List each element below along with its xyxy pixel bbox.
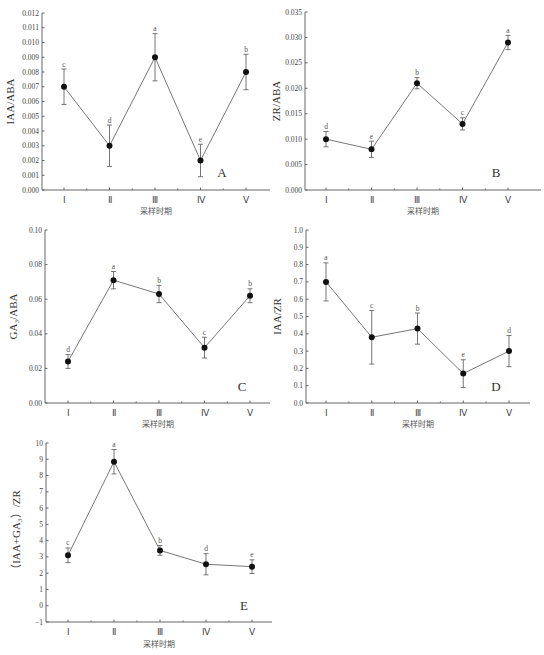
x-tick-label: Ⅴ (243, 195, 250, 205)
y-tick-label: 0.04 (29, 329, 42, 338)
y-tick-label: 3 (39, 552, 43, 561)
y-tick-label: 1.0 (294, 226, 304, 235)
panel-a: 0.0000.0010.0020.0030.0040.0050.0060.007… (4, 9, 270, 217)
y-tick-label: 0.015 (285, 109, 302, 118)
significance-label: e (462, 350, 466, 359)
x-tick-label: Ⅱ (112, 627, 116, 637)
y-tick-label: 4 (39, 536, 43, 545)
significance-label: c (66, 538, 70, 547)
significance-label: d (108, 116, 112, 125)
figure: 0.0000.0010.0020.0030.0040.0050.0060.007… (0, 0, 544, 655)
y-tick-label: 0.035 (285, 8, 302, 17)
x-tick-label: Ⅰ (67, 408, 70, 418)
x-tick-label: Ⅲ (414, 195, 420, 205)
y-tick-label: 0.10 (29, 226, 42, 235)
y-axis-title: ZR/ABA (270, 81, 282, 121)
data-point (152, 54, 158, 60)
data-point (243, 69, 249, 75)
x-tick-label: Ⅳ (459, 408, 468, 418)
significance-label: b (416, 304, 420, 313)
x-tick-label: Ⅱ (370, 408, 374, 418)
y-tick-label: 0.08 (29, 260, 42, 269)
significance-label: e (370, 132, 374, 141)
significance-label: e (250, 550, 254, 559)
x-tick-label: Ⅳ (202, 627, 211, 637)
data-point (203, 561, 209, 567)
y-tick-label: 0.7 (294, 277, 304, 286)
y-tick-label: 0.009 (22, 53, 39, 62)
y-tick-label: 0.4 (294, 329, 304, 338)
x-tick-label: Ⅰ (325, 408, 328, 418)
significance-label: c (203, 328, 207, 337)
data-point (249, 564, 255, 570)
data-point (414, 80, 420, 86)
panel-label: D (491, 379, 500, 394)
y-tick-label: 5 (39, 520, 43, 529)
x-tick-label: Ⅰ (67, 627, 70, 637)
x-axis-title: 采样时期 (142, 419, 174, 429)
y-tick-label: 1 (39, 585, 43, 594)
y-tick-label: 0.030 (285, 33, 302, 42)
panel-label: A (217, 165, 227, 180)
data-point (198, 158, 204, 164)
y-tick-label: 0.005 (22, 112, 39, 121)
significance-label: d (204, 544, 208, 553)
y-tick-label: 0.007 (22, 82, 39, 91)
y-tick-label: 0 (39, 601, 43, 610)
y-tick-label: 7 (39, 487, 43, 496)
y-tick-label: 2 (39, 569, 43, 578)
x-tick-label: Ⅴ (506, 408, 513, 418)
significance-label: b (158, 536, 162, 545)
significance-label: c (461, 108, 465, 117)
y-tick-label: 0.06 (29, 295, 42, 304)
x-tick-label: Ⅱ (112, 408, 116, 418)
data-point (157, 547, 163, 553)
y-tick-label: 0.011 (22, 23, 39, 32)
data-point (369, 334, 375, 340)
y-tick-label: 6 (39, 504, 43, 513)
y-tick-label: 0.3 (294, 347, 304, 356)
data-point (460, 371, 466, 377)
x-tick-label: Ⅳ (197, 195, 206, 205)
y-tick-label: 0.000 (285, 186, 302, 195)
y-axis-title: GA₃/ABA (7, 293, 19, 339)
data-point (65, 552, 71, 558)
x-tick-label: Ⅱ (108, 195, 112, 205)
x-tick-label: Ⅴ (247, 408, 254, 418)
panel-c: 0.000.020.040.060.080.10ⅠⅡⅢⅣⅤ采样时期GA₃/ABA… (7, 226, 270, 430)
y-tick-label: 0.6 (294, 295, 304, 304)
y-tick-label: 0.020 (285, 84, 302, 93)
x-tick-label: Ⅲ (415, 408, 421, 418)
significance-label: a (112, 440, 116, 449)
x-tick-label: Ⅳ (201, 408, 210, 418)
significance-label: e (199, 135, 203, 144)
significance-label: d (66, 345, 70, 354)
y-axis-title: IAA/ZR (271, 298, 283, 335)
y-axis-title: （IAA+GA₃）/ZR (10, 490, 22, 575)
significance-label: b (244, 45, 248, 54)
data-point (111, 459, 117, 465)
x-tick-label: Ⅲ (157, 627, 163, 637)
y-tick-label: 0.5 (294, 312, 304, 321)
x-axis-title: 采样时期 (140, 206, 172, 216)
x-axis-title: 采样时期 (407, 206, 439, 216)
data-point (415, 326, 421, 332)
y-tick-label: −1 (35, 618, 43, 627)
x-tick-label: Ⅲ (156, 408, 162, 418)
y-axis-title: IAA/ABA (4, 79, 16, 125)
y-tick-label: 0.8 (294, 260, 304, 269)
y-tick-label: 0.008 (22, 68, 39, 77)
y-tick-label: 0.005 (285, 160, 302, 169)
significance-label: b (415, 68, 419, 77)
y-tick-label: 0.1 (294, 381, 304, 390)
y-tick-label: 0.9 (294, 243, 304, 252)
significance-label: a (153, 24, 157, 33)
data-point (460, 121, 466, 127)
significance-label: b (157, 276, 161, 285)
y-tick-label: 8 (39, 471, 43, 480)
y-tick-label: 0.001 (22, 171, 39, 180)
data-point (369, 146, 375, 152)
y-tick-label: 0.006 (22, 97, 39, 106)
x-tick-label: Ⅴ (249, 627, 256, 637)
y-tick-label: 0.002 (22, 156, 39, 165)
